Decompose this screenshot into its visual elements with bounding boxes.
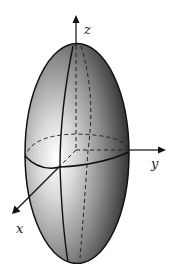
x-axis-label: x bbox=[16, 221, 24, 236]
z-axis: z bbox=[73, 15, 92, 46]
y-axis-label: y bbox=[150, 156, 159, 171]
ellipsoid-surface bbox=[25, 44, 129, 264]
ellipsoid-diagram: z y x bbox=[0, 0, 171, 264]
y-axis: y bbox=[129, 147, 166, 172]
z-axis-label: z bbox=[83, 22, 91, 37]
